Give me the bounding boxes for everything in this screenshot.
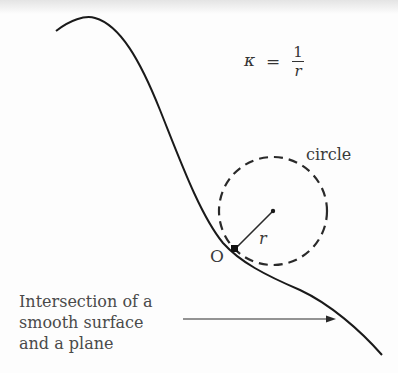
fraction-numerator: 1 xyxy=(292,44,304,60)
caption: Intersection of a smooth surface and a p… xyxy=(19,291,153,354)
caption-line: Intersection of a xyxy=(19,291,153,312)
circle-label: circle xyxy=(306,145,351,165)
origin-point xyxy=(231,245,238,252)
center-point xyxy=(271,209,275,213)
equals-sign: = xyxy=(266,51,280,71)
radius-label: r xyxy=(259,229,267,249)
origin-label: O xyxy=(210,246,224,266)
caption-line: and a plane xyxy=(19,333,153,354)
curvature-fraction: 1 r xyxy=(292,44,304,79)
radius-line xyxy=(235,211,273,249)
kappa-symbol: κ xyxy=(244,50,255,70)
arrow-head-icon xyxy=(326,316,336,323)
fraction-denominator: r xyxy=(292,63,304,79)
caption-line: smooth surface xyxy=(19,312,153,333)
